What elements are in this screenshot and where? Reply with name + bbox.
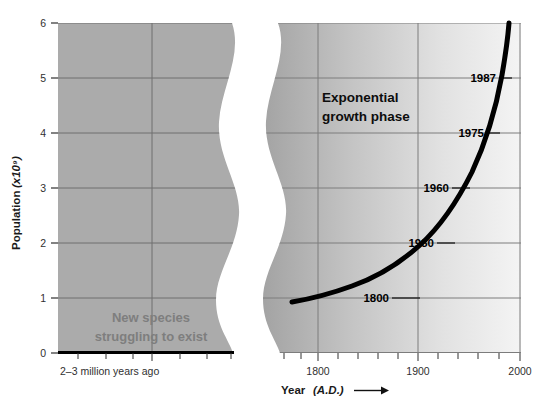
y-axis-title-unit: (x10⁹) [10,156,22,188]
xtick-label-1800: 1800 [306,365,330,377]
point-label-1960: 1960 [423,182,449,194]
x-axis-title-unit: (A.D.) [313,384,344,396]
x-axis-arrow-head [381,387,389,395]
ytick-label-3: 3 [40,182,46,194]
y-axis-ticks [51,23,58,353]
ytick-label-0: 0 [40,347,46,359]
right-panel: 1800 1930 1960 1975 1987 Exponential gro… [260,23,532,396]
ytick-label-4: 4 [40,127,46,139]
right-panel-xticks [284,353,520,361]
chart-canvas: New species struggling to exist 2–3 mill… [0,0,560,410]
ytick-label-2: 2 [40,237,46,249]
left-panel-annotation-line1: New species [112,310,190,325]
point-label-1800: 1800 [363,292,389,304]
x-axis-title: Year (A.D.) [281,384,389,396]
point-label-1987: 1987 [470,72,496,84]
y-axis-title-main: Population [10,191,22,250]
x-axis-title-main: Year [281,384,306,396]
ytick-label-5: 5 [40,72,46,84]
population-growth-chart: New species struggling to exist 2–3 mill… [0,0,560,410]
right-panel-annotation-line1: Exponential [322,90,399,105]
point-label-1930: 1930 [408,237,434,249]
left-panel: New species struggling to exist 2–3 mill… [58,23,243,377]
y-axis-title: Population (x10⁹) [10,156,22,250]
point-label-1975: 1975 [458,127,484,139]
left-panel-annotation-line2: struggling to exist [95,329,208,344]
right-panel-annotation-line2: growth phase [322,109,410,124]
xtick-label-2000: 2000 [508,365,532,377]
xtick-label-1900: 1900 [406,365,430,377]
y-axis: 6 5 4 3 2 1 0 Population (x10⁹) [10,17,58,359]
left-panel-xticks [78,353,231,361]
ytick-label-1: 1 [40,292,46,304]
ytick-label-6: 6 [40,17,46,29]
left-panel-caption: 2–3 million years ago [60,365,159,377]
